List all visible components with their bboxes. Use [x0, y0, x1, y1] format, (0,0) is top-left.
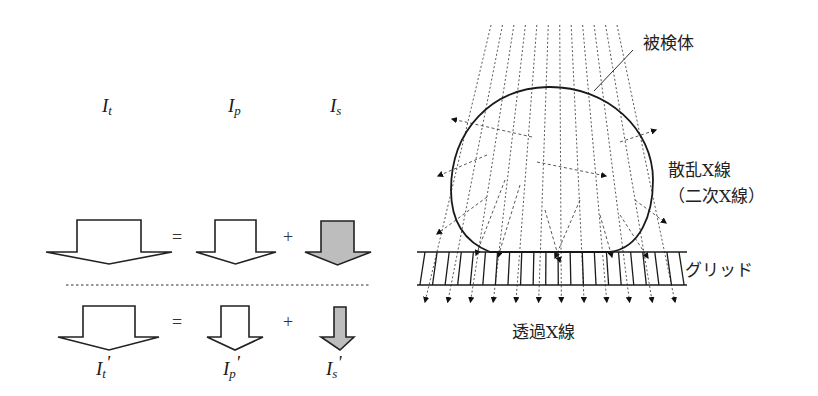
grid-slat: [679, 252, 684, 285]
primary-intensity-prime-arrow: [207, 306, 263, 350]
equation-row-1: [46, 220, 371, 265]
xray-beam: [594, 25, 629, 302]
xray-beam: [448, 25, 503, 302]
equals-sign: =: [172, 312, 182, 332]
label-grid: グリッド: [685, 260, 753, 280]
plus-sign: +: [283, 227, 293, 247]
label-total-intensity: It: [101, 95, 112, 118]
intensity-labels-top: It Ip Is: [101, 95, 341, 118]
anti-scatter-grid: [417, 252, 687, 285]
grid-slat: [631, 252, 634, 285]
grid-slat: [508, 252, 510, 285]
label-total-intensity-prime: It': [95, 352, 111, 381]
grid-slat: [445, 252, 449, 285]
label-primary-intensity: Ip: [227, 95, 241, 118]
equals-sign: =: [172, 227, 182, 247]
grid-slat: [655, 252, 659, 285]
grid-slat: [594, 252, 596, 285]
primary-intensity-arrow: [196, 220, 276, 264]
xray-beam: [560, 25, 562, 302]
label-primary-intensity-prime: Ip': [222, 352, 241, 381]
scatter-ray: [555, 200, 580, 258]
grid-slat: [432, 252, 437, 285]
xray-beam: [470, 25, 513, 302]
label-scatter-intensity-prime: Is': [325, 352, 342, 381]
total-intensity-prime-arrow: [58, 306, 159, 350]
primary-xray-beams: [425, 25, 675, 302]
xray-beam: [425, 25, 491, 302]
intensity-labels-bottom: It' Ip' Is': [95, 352, 342, 381]
grid-slat: [570, 252, 571, 285]
label-transmitted-xray: 透過X線: [512, 322, 575, 342]
grid-slat: [483, 252, 486, 285]
equation-row-2: [58, 306, 354, 350]
label-secondary-xray: （二次X線）: [668, 186, 765, 206]
scatter-ray: [476, 180, 505, 255]
grid-slat: [619, 252, 622, 285]
scatter-ray: [498, 185, 520, 257]
grid-scatter-illustration: 被検体 散乱X線 （二次X線） グリッド 透過X線: [417, 25, 765, 342]
label-scatter-xray: 散乱X線: [668, 160, 731, 180]
subject-leader-line: [594, 50, 633, 91]
grid-slat: [458, 252, 462, 285]
intensity-equation-panel: It Ip Is = + = + It' Ip' Is': [46, 95, 371, 381]
subject-body-outline: [451, 87, 653, 252]
xray-beam: [617, 25, 675, 302]
scatter-intensity-prime-arrow: [321, 307, 354, 350]
grid-slat: [420, 252, 425, 285]
grid-slat: [582, 252, 583, 285]
xray-beam: [606, 25, 653, 302]
grid-slat: [521, 252, 522, 285]
plus-sign: +: [283, 312, 293, 332]
grid-slats: [420, 252, 684, 285]
total-intensity-arrow: [46, 220, 172, 264]
grid-slat: [606, 252, 608, 285]
label-subject: 被検体: [643, 33, 694, 53]
grid-slat: [533, 252, 534, 285]
scatter-intensity-arrow: [305, 221, 371, 265]
scatter-ray: [600, 215, 612, 257]
xray-scatter-diagram: It Ip Is = + = + It' Ip' Is' 被検体 散乱X線 （二…: [0, 0, 818, 396]
scatter-ray: [438, 155, 487, 176]
grid-slat: [470, 252, 473, 285]
label-scatter-intensity: Is: [329, 95, 341, 118]
